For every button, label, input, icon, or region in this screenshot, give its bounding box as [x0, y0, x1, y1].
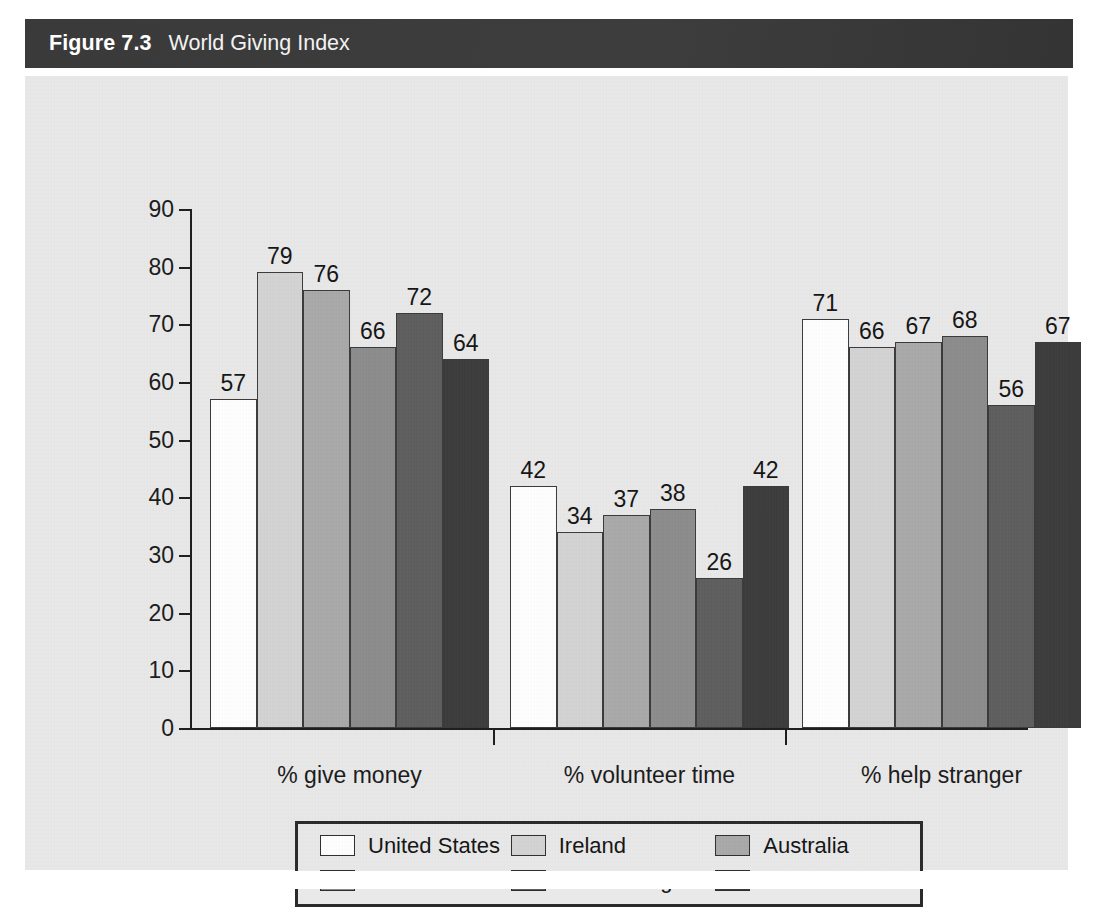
figure-number: Figure 7.3	[49, 31, 152, 56]
y-axis-tick-label: 50	[148, 426, 174, 453]
bar: 68	[942, 336, 989, 728]
bar-value-label: 79	[267, 243, 293, 270]
bar: 72	[396, 313, 443, 728]
x-axis-tick-mark	[785, 730, 787, 745]
bar: 79	[257, 272, 304, 728]
y-axis-tick-mark	[179, 670, 190, 672]
legend-label: Australia	[763, 833, 849, 859]
y-axis-tick-label: 40	[148, 484, 174, 511]
y-axis-tick-mark	[179, 267, 190, 269]
bar: 66	[350, 347, 397, 728]
y-axis-tick-label: 0	[161, 715, 174, 742]
x-axis-category-label: % volunteer time	[564, 762, 735, 789]
y-axis-tick-label: 30	[148, 542, 174, 569]
y-axis-tick-mark	[179, 324, 190, 326]
bar: 34	[557, 532, 604, 728]
y-axis-line	[190, 209, 192, 730]
bar: 66	[849, 347, 896, 728]
bar-value-label: 67	[1045, 313, 1071, 340]
bar-value-label: 64	[453, 330, 479, 357]
bar-value-label: 68	[952, 307, 978, 334]
bar-value-label: 34	[567, 503, 593, 530]
y-axis-tick-mark	[179, 209, 190, 211]
y-axis-tick-label: 10	[148, 657, 174, 684]
plot-area: 0102030405060708090 57797666726442343738…	[190, 209, 1028, 730]
y-axis-tick-label: 70	[148, 311, 174, 338]
bar: 56	[988, 405, 1035, 728]
bar-value-label: 37	[613, 486, 639, 513]
chart-panel: 0102030405060708090 57797666726442343738…	[25, 76, 1068, 870]
legend-label: Ireland	[559, 833, 626, 859]
bar-value-label: 76	[313, 261, 339, 288]
bar: 42	[743, 486, 790, 728]
y-axis-tick-label: 60	[148, 369, 174, 396]
bar: 64	[443, 359, 490, 728]
legend-label: United States	[368, 833, 500, 859]
bar: 71	[802, 319, 849, 728]
legend-item: Ireland	[511, 833, 716, 859]
bar-value-label: 42	[753, 457, 779, 484]
figure-title: World Giving Index	[169, 31, 350, 56]
legend-item: United States	[320, 833, 511, 859]
bar: 57	[210, 399, 257, 728]
bar-value-label: 56	[998, 376, 1024, 403]
bar-value-label: 42	[520, 457, 546, 484]
legend-swatch	[715, 835, 750, 856]
y-axis-tick-mark	[179, 440, 190, 442]
y-axis-tick-mark	[179, 728, 190, 730]
y-axis-tick-mark	[179, 497, 190, 499]
figure-title-bar: Figure 7.3 World Giving Index	[25, 19, 1073, 68]
bar: 76	[303, 290, 350, 728]
bar-value-label: 72	[406, 284, 432, 311]
x-axis-category-label: % help stranger	[861, 762, 1022, 789]
y-axis-tick-mark	[179, 613, 190, 615]
chart-legend: United StatesIrelandAustraliaNew Zealand…	[295, 821, 923, 907]
bar: 37	[603, 515, 650, 728]
bar: 26	[696, 578, 743, 728]
y-axis-tick-label: 80	[148, 253, 174, 280]
bar: 67	[895, 342, 942, 728]
bar-value-label: 66	[360, 318, 386, 345]
x-axis-tick-mark	[190, 715, 192, 730]
bar-value-label: 71	[812, 290, 838, 317]
bar: 42	[510, 486, 557, 728]
x-axis-tick-mark	[493, 730, 495, 745]
x-axis-line	[190, 728, 1028, 730]
x-axis-category-label: % give money	[277, 762, 421, 789]
legend-item: Australia	[715, 833, 906, 859]
bar-value-label: 66	[859, 318, 885, 345]
legend-swatch	[320, 835, 355, 856]
y-axis-tick-mark	[179, 555, 190, 557]
y-axis-tick-label: 90	[148, 196, 174, 223]
bar-value-label: 57	[220, 370, 246, 397]
legend-swatch	[511, 835, 546, 856]
bar: 38	[650, 509, 697, 728]
bar-value-label: 26	[706, 549, 732, 576]
y-axis-tick-label: 20	[148, 599, 174, 626]
bar-value-label: 38	[660, 480, 686, 507]
page-edge	[0, 871, 1116, 889]
bar: 67	[1035, 342, 1082, 728]
y-axis-tick-mark	[179, 382, 190, 384]
bar-value-label: 67	[905, 313, 931, 340]
